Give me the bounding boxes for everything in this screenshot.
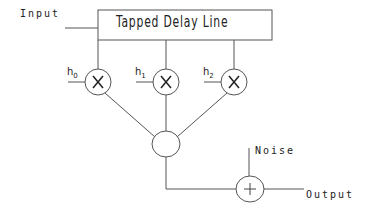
coef-h2-sub: 2 [209,72,213,80]
summer-to-adder-line [166,157,236,189]
coef-label-h0: h0 [67,66,78,80]
coef-label-h2: h2 [203,66,214,80]
branch-line-2 [177,93,227,137]
noise-label: Noise [255,145,295,156]
coef-h1-sub: 1 [141,72,145,80]
coef-h0-sub: 0 [73,72,77,80]
input-label: Input [20,8,60,19]
diagram-canvas [0,0,381,213]
coef-label-h1: h1 [135,66,146,80]
output-label: Output [306,189,354,200]
summer-circle [152,131,180,157]
branch-line-0 [105,93,155,137]
tapped-delay-line-title: Tapped Delay Line [116,13,228,31]
